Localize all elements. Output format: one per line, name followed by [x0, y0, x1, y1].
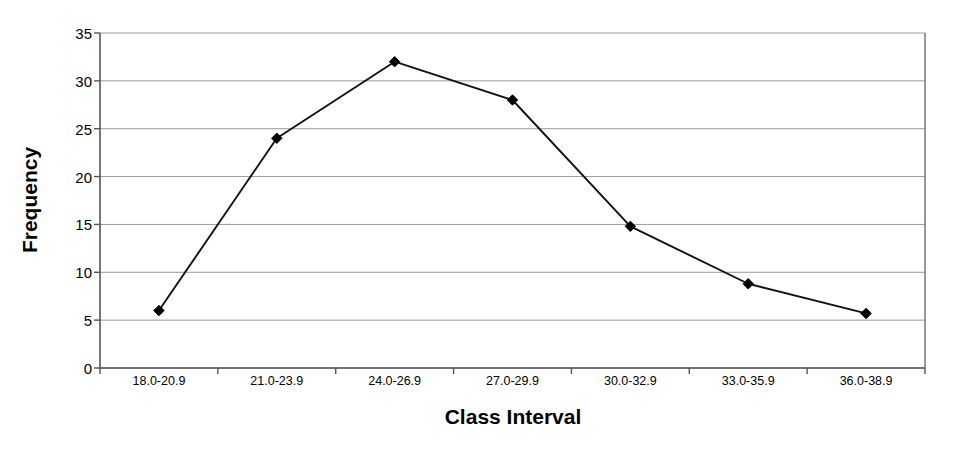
data-point-marker: [272, 133, 282, 143]
x-tick-label: 24.0-26.9: [368, 374, 421, 388]
x-tick-label: 30.0-32.9: [604, 374, 657, 388]
frequency-polygon-chart: Frequency 05101520253035 18.0-20.921.0-2…: [0, 0, 966, 454]
x-tick-label: 21.0-23.9: [250, 374, 303, 388]
x-axis-title: Class Interval: [100, 405, 926, 429]
x-tick-label: 27.0-29.9: [486, 374, 539, 388]
gridlines: [100, 33, 925, 368]
data-point-marker: [389, 57, 399, 67]
x-tick-label: 18.0-20.9: [133, 374, 186, 388]
series-markers-frequency: [154, 57, 872, 319]
tick-marks: [94, 33, 925, 374]
x-axis-tick-labels: 18.0-20.921.0-23.924.0-26.927.0-29.930.0…: [100, 374, 926, 396]
x-tick-label: 33.0-35.9: [722, 374, 775, 388]
data-point-marker: [861, 308, 871, 318]
axis-lines: [100, 33, 925, 368]
data-point-marker: [743, 279, 753, 289]
x-tick-label: 36.0-38.9: [840, 374, 893, 388]
